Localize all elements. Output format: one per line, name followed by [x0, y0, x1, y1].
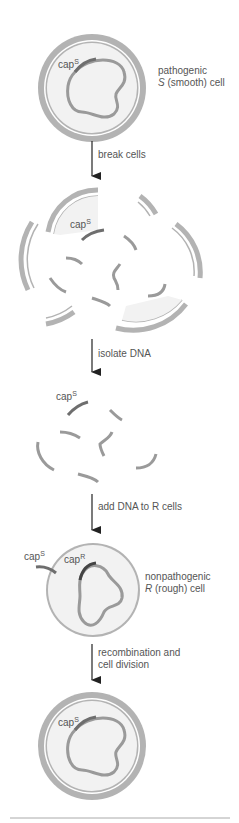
r-cell-label-line2: R (rough) cell [145, 583, 205, 594]
arrow-label-add-dna: add DNA to R cells [98, 501, 182, 512]
cap-s-label-isolated: capS [56, 390, 77, 402]
s-cell-label-line2: S (smooth) cell [158, 77, 225, 88]
r-cell-label-line1: nonpathogenic [145, 571, 211, 582]
broken-cell-fragments: capS [21, 190, 200, 330]
arrow-label-break-cells: break cells [98, 149, 146, 160]
griffith-transformation-diagram: capS pathogenic S (smooth) cell break ce… [0, 0, 239, 823]
arrow-label-isolate-dna: isolate DNA [98, 348, 151, 359]
s-cell-label-line1: pathogenic [158, 65, 207, 76]
s-cell: capS [38, 34, 146, 142]
arrow-label-recombination-line2: cell division [98, 659, 149, 670]
cap-s-label-outside: capS [24, 550, 45, 562]
transformed-s-cell: capS [38, 692, 146, 800]
isolated-dna-fragments: capS [38, 390, 156, 482]
arrow-label-recombination-line1: recombination and [98, 647, 180, 658]
r-cell: capS capR [24, 543, 140, 637]
